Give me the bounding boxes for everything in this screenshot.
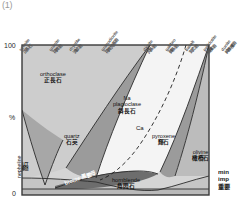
caption-line-2: imp [218,175,240,182]
mineral-label-nepheline: nepheline 霞石 [17,155,28,178]
mineral-label-zh: 霞石 [23,155,29,178]
figure-caption: min imp 重要 [218,168,240,190]
rock-type-axis-labels: syenite 正長石 granite 花崗岩 rhyolite 流紋岩 gra… [0,0,240,48]
y-axis-tick-0: 0 [12,190,16,197]
y-axis-tick-100: 100 [4,42,16,49]
y-axis-label: % [9,114,15,121]
caption-line-1: min [218,168,240,175]
figure-container: (1) [0,0,240,204]
area-bottom-strip [22,189,209,195]
caption-line-3: 重要 [218,183,240,190]
